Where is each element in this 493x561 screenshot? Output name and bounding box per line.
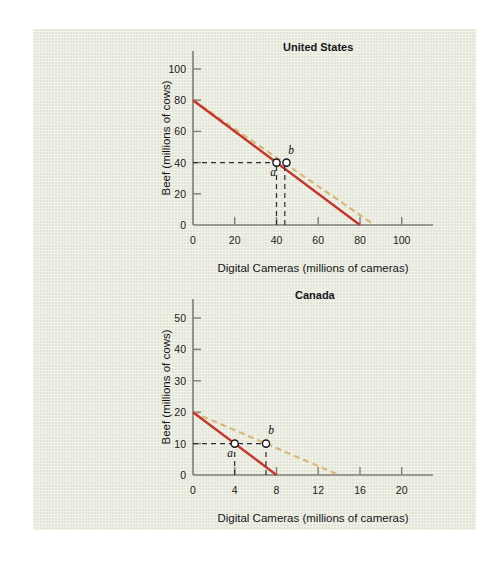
x-tick-label-us-4: 80 <box>354 234 366 246</box>
x-ticks-canada <box>235 467 402 475</box>
x-tick-label-us-2: 40 <box>271 234 283 246</box>
x-tick-label-us-5: 100 <box>393 234 411 246</box>
x-tick-label-us-1: 20 <box>229 234 241 246</box>
x-tick-label-ca-0: 0 <box>190 484 196 496</box>
y-tick-label-ca-0: 0 <box>180 469 186 481</box>
chart-title-canada: Canada <box>295 289 336 301</box>
y-tick-label-us-5: 100 <box>168 63 186 75</box>
x-tick-label-ca-2: 8 <box>274 484 280 496</box>
x-axis-label-us: Digital Cameras (millions of cameras) <box>217 262 408 274</box>
figure-page: United States 100 80 60 40 20 0 <box>0 0 493 561</box>
x-tick-label-ca-5: 20 <box>396 484 408 496</box>
y-tick-label-ca-4: 40 <box>174 343 186 355</box>
x-tick-label-us-0: 0 <box>190 234 196 246</box>
x-tick-label-us-3: 60 <box>312 234 324 246</box>
y-tick-label-us-3: 60 <box>174 125 186 137</box>
y-tick-label-ca-5: 50 <box>174 312 186 324</box>
data-point-b-us <box>283 159 290 166</box>
chart-canada: Canada 50 40 30 20 10 0 <box>33 277 476 530</box>
y-tick-label-ca-2: 20 <box>174 406 186 418</box>
x-tick-label-ca-4: 16 <box>354 484 366 496</box>
figure-panel: United States 100 80 60 40 20 0 <box>33 29 476 530</box>
y-tick-label-us-2: 40 <box>174 157 186 169</box>
chart-united-states-svg: United States 100 80 60 40 20 0 <box>33 29 476 279</box>
y-tick-label-us-1: 20 <box>174 188 186 200</box>
y-tick-label-ca-3: 30 <box>174 375 186 387</box>
data-point-a-label-us: a <box>270 166 276 178</box>
y-ticks-canada <box>193 318 201 444</box>
x-axis-label-canada: Digital Cameras (millions of cameras) <box>217 512 408 524</box>
y-axis-label-canada: Beef (millions of cows) <box>160 329 172 444</box>
y-tick-label-ca-1: 10 <box>174 438 186 450</box>
chart-title-us: United States <box>283 41 353 53</box>
x-tick-label-ca-3: 12 <box>312 484 324 496</box>
data-point-b-label-us: b <box>288 144 294 156</box>
data-point-a-label-canada: a <box>227 447 233 459</box>
data-point-b-canada <box>262 440 269 447</box>
y-tick-label-us-4: 80 <box>174 94 186 106</box>
chart-canada-svg: Canada 50 40 30 20 10 0 <box>33 277 476 530</box>
chart-united-states: United States 100 80 60 40 20 0 <box>33 29 476 279</box>
x-tick-label-ca-1: 4 <box>232 484 238 496</box>
y-ticks-us <box>193 69 201 194</box>
data-point-b-label-canada: b <box>268 424 274 436</box>
x-ticks-us <box>235 217 402 225</box>
y-tick-label-us-0: 0 <box>180 219 186 231</box>
y-axis-label-us: Beef (millions of cows) <box>160 80 172 195</box>
